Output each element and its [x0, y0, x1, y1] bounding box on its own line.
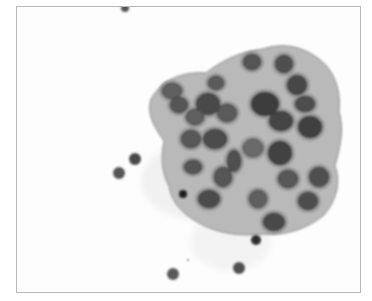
stray-cell — [233, 262, 245, 274]
stray-cell — [129, 153, 141, 165]
nucleus — [298, 116, 322, 138]
stray-cell — [113, 167, 125, 179]
nucleus — [243, 139, 263, 157]
nucleus — [186, 109, 204, 125]
nucleus — [217, 104, 237, 122]
stray-cell — [179, 190, 187, 198]
nucleus — [181, 130, 201, 148]
nucleus — [208, 76, 224, 90]
nucleus — [287, 75, 307, 95]
nucleus — [243, 54, 261, 70]
nucleus — [198, 190, 220, 208]
nucleus — [298, 192, 318, 210]
nucleus — [214, 167, 232, 187]
stray-cell — [167, 268, 179, 280]
nucleus — [269, 111, 293, 131]
nucleus — [309, 167, 329, 187]
stray-cell — [251, 235, 261, 245]
nucleus — [295, 96, 315, 112]
nucleus — [268, 141, 292, 165]
micrograph-frame — [16, 6, 361, 293]
nucleus — [184, 160, 202, 174]
nucleus — [278, 170, 298, 188]
nucleus — [263, 213, 285, 231]
stray-cell — [187, 259, 189, 261]
nucleus — [275, 55, 293, 73]
stray-cell — [121, 6, 129, 12]
nucleus — [203, 129, 227, 149]
nucleus — [249, 190, 267, 208]
nucleus — [170, 97, 188, 113]
nucleus — [227, 150, 241, 172]
micrograph — [16, 6, 361, 293]
